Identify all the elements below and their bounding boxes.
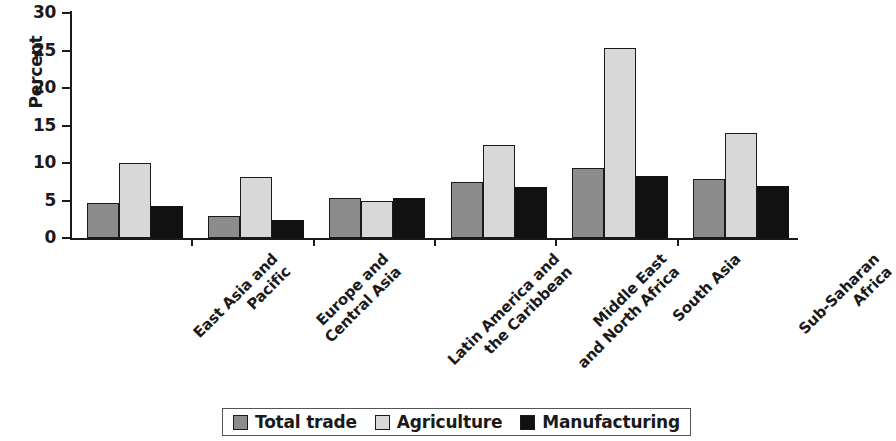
x-axis-label: Latin America andthe Caribbean <box>444 250 576 382</box>
x-axis-label: Europe andCentral Asia <box>308 250 405 347</box>
legend-item[interactable]: Total trade <box>233 412 357 432</box>
bar-total-trade <box>451 182 483 238</box>
y-axis-tick <box>62 200 71 202</box>
legend-item[interactable]: Agriculture <box>375 412 503 432</box>
bar-agriculture <box>483 145 515 238</box>
x-axis-label: Middle Eastand North Africa <box>561 250 683 372</box>
legend-swatch-light-gray <box>375 415 390 430</box>
y-axis-title: Percent <box>26 12 46 132</box>
bar-total-trade <box>208 216 240 239</box>
x-axis-label: East Asia andPacific <box>190 250 295 355</box>
y-axis-tick <box>62 162 71 164</box>
bar-agriculture <box>604 48 636 238</box>
bar-manufacturing <box>515 187 547 238</box>
bar-manufacturing <box>151 206 183 238</box>
x-axis-label-line: Latin America and <box>444 250 563 369</box>
y-axis-tick <box>62 50 71 52</box>
chart-legend: Total tradeAgricultureManufacturing <box>222 408 691 436</box>
bar-total-trade <box>572 168 604 238</box>
legend-label: Manufacturing <box>542 412 680 432</box>
x-axis-label: Sub-SaharanAfrica <box>795 250 896 351</box>
bar-manufacturing <box>393 198 425 239</box>
x-axis-separator <box>313 238 315 246</box>
x-axis-separator <box>434 238 436 246</box>
x-axis-label: South Asia <box>669 250 745 326</box>
bar-agriculture <box>119 163 151 238</box>
y-axis-tick <box>62 12 71 14</box>
y-axis-tick-label: 15 <box>20 117 56 134</box>
legend-label: Agriculture <box>397 412 503 432</box>
bar-total-trade <box>693 179 725 238</box>
bar-manufacturing <box>272 220 304 238</box>
legend-swatch-gray <box>233 415 248 430</box>
y-axis-tick-label: 5 <box>20 192 56 209</box>
y-axis-tick <box>62 87 71 89</box>
legend-label: Total trade <box>255 412 357 432</box>
bar-agriculture <box>725 133 757 238</box>
x-axis-separator <box>677 238 679 246</box>
y-axis-tick-label: 10 <box>20 154 56 171</box>
bar-manufacturing <box>757 186 789 239</box>
y-axis-tick-label: 0 <box>20 229 56 246</box>
bar-total-trade <box>329 198 361 239</box>
x-axis-separator <box>555 238 557 246</box>
x-axis-label-line: South Asia <box>669 250 745 326</box>
legend-swatch-black <box>520 415 535 430</box>
y-axis-tick-label: 30 <box>20 4 56 21</box>
x-axis-separator <box>191 238 193 246</box>
y-axis-tick <box>62 125 71 127</box>
bar-agriculture <box>240 177 272 238</box>
y-axis-tick <box>62 237 71 239</box>
bar-agriculture <box>361 201 393 239</box>
bar-manufacturing <box>636 176 668 238</box>
bar-total-trade <box>87 203 119 238</box>
y-axis-tick-label: 25 <box>20 42 56 59</box>
legend-item[interactable]: Manufacturing <box>520 412 680 432</box>
y-axis-tick-label: 20 <box>20 79 56 96</box>
x-axis-label-line: the Caribbean <box>457 263 576 382</box>
